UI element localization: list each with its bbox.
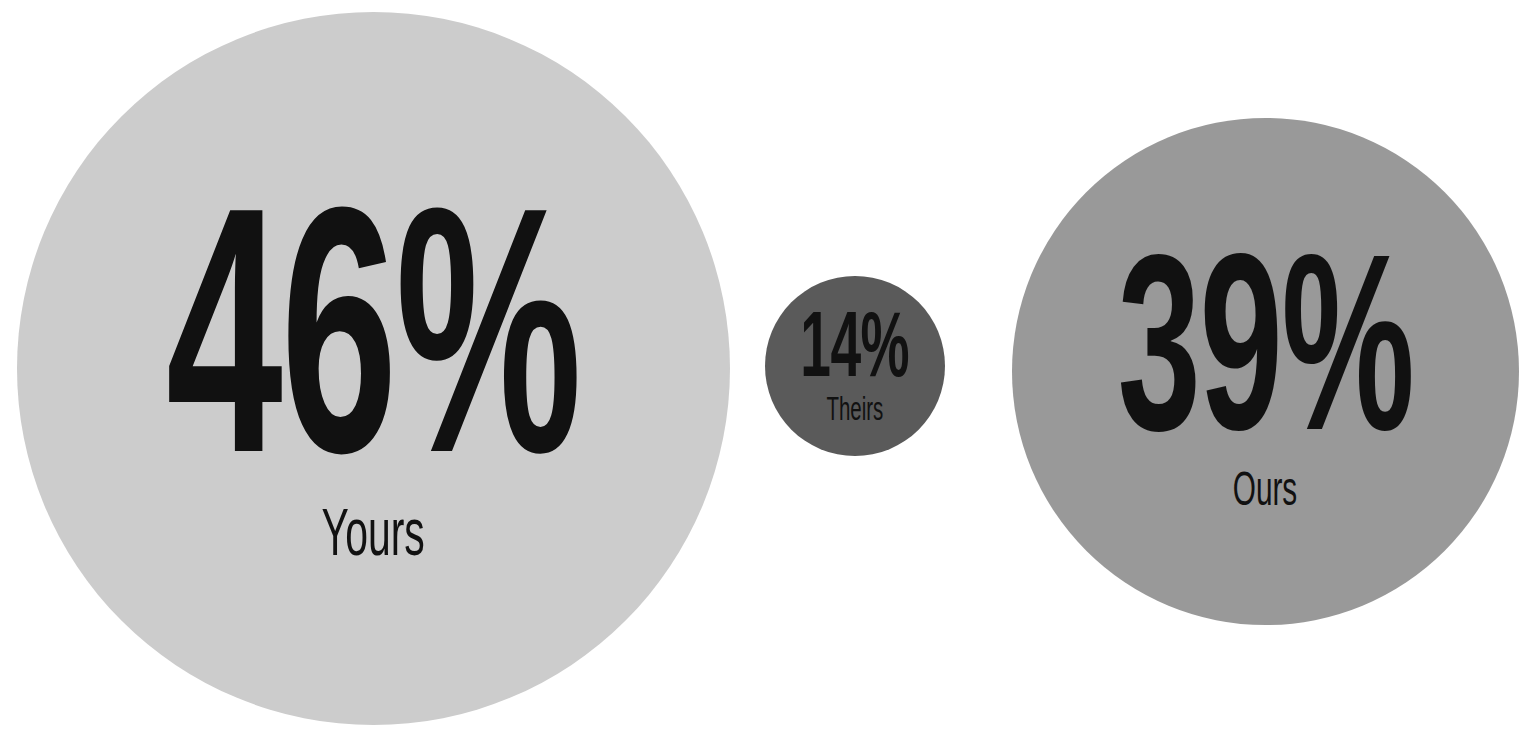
bubble-ours-value: 39% bbox=[1118, 240, 1414, 445]
bubble-ours-label: Ours bbox=[1233, 465, 1297, 513]
bubble-yours-content: 46% Yours bbox=[28, 186, 718, 565]
bubble-theirs-content: 14% Theirs bbox=[764, 307, 945, 424]
bubble-theirs: 14% Theirs bbox=[765, 276, 945, 456]
bubble-yours-label: Yours bbox=[322, 499, 425, 565]
bubble-theirs-value: 14% bbox=[801, 307, 910, 382]
bubble-yours: 46% Yours bbox=[17, 12, 730, 725]
bubble-chart-canvas: 46% Yours 14% Theirs 39% Ours bbox=[0, 0, 1522, 733]
bubble-ours-content: 39% Ours bbox=[1019, 240, 1512, 513]
bubble-theirs-label: Theirs bbox=[827, 392, 884, 425]
bubble-yours-value: 46% bbox=[166, 186, 580, 473]
bubble-ours: 39% Ours bbox=[1012, 118, 1519, 625]
